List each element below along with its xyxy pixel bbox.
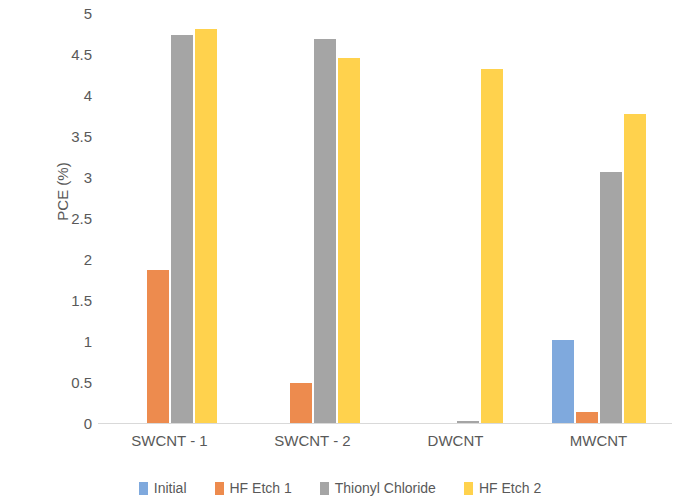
bar[interactable] (147, 270, 169, 423)
legend-swatch-icon (139, 482, 148, 495)
legend-swatch-icon (215, 482, 224, 495)
legend-swatch-icon (320, 482, 329, 495)
bar-group (98, 13, 241, 423)
legend-label: Initial (154, 480, 187, 496)
bar-group-bars (98, 13, 241, 423)
chart-legend: InitialHF Etch 1Thionyl ChlorideHF Etch … (0, 478, 680, 498)
bar[interactable] (600, 172, 622, 423)
bar[interactable] (314, 39, 336, 423)
legend-swatch-icon (464, 482, 473, 495)
x-axis-tick-label: SWCNT - 2 (241, 432, 384, 456)
bar[interactable] (481, 69, 503, 423)
legend-item[interactable]: HF Etch 2 (464, 480, 541, 496)
bar[interactable] (576, 412, 598, 423)
y-axis-tick-label: 3 (44, 170, 92, 185)
x-axis-tick-labels: SWCNT - 1SWCNT - 2DWCNTMWCNT (98, 432, 670, 456)
legend-label: HF Etch 1 (230, 480, 292, 496)
bar[interactable] (338, 58, 360, 423)
y-axis-tick-label: 5 (44, 6, 92, 21)
bar-chart: PCE (%) 54.543.532.521.510.50 SWCNT - 1S… (0, 0, 680, 500)
bar-group (241, 13, 384, 423)
y-axis-tick-label: 1.5 (44, 293, 92, 308)
bar[interactable] (624, 114, 646, 423)
y-axis-tick-label: 3.5 (44, 129, 92, 144)
bar[interactable] (552, 340, 574, 423)
bar-group-bars (527, 13, 670, 423)
bar-group-bars (241, 13, 384, 423)
y-axis-tick-label: 4 (44, 88, 92, 103)
x-axis-tick-label: DWCNT (384, 432, 527, 456)
legend-label: Thionyl Chloride (335, 480, 436, 496)
bar-group-bars (384, 13, 527, 423)
bar[interactable] (195, 29, 217, 423)
y-axis-tick-label: 0.5 (44, 375, 92, 390)
y-axis-tick-label: 2 (44, 252, 92, 267)
y-axis-tick-label: 1 (44, 334, 92, 349)
legend-label: HF Etch 2 (479, 480, 541, 496)
bar[interactable] (171, 35, 193, 423)
plot-area (98, 13, 670, 423)
legend-item[interactable]: Thionyl Chloride (320, 480, 436, 496)
legend-item[interactable]: HF Etch 1 (215, 480, 292, 496)
y-axis-tick-label: 4.5 (44, 47, 92, 62)
bar-group (384, 13, 527, 423)
bar[interactable] (290, 383, 312, 423)
x-axis-tick-label: MWCNT (527, 432, 670, 456)
y-axis-tick-label: 0 (44, 416, 92, 431)
bar-group (527, 13, 670, 423)
x-axis-line (98, 423, 672, 424)
x-axis-tick-label: SWCNT - 1 (98, 432, 241, 456)
y-axis-tick-label: 2.5 (44, 211, 92, 226)
legend-item[interactable]: Initial (139, 480, 187, 496)
y-axis-tick-labels: 54.543.532.521.510.50 (44, 0, 92, 434)
